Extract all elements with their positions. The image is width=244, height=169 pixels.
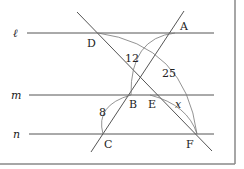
measure-df: 25 bbox=[162, 67, 176, 80]
label-line-l: ℓ bbox=[13, 27, 18, 40]
label-point-e: E bbox=[148, 98, 156, 111]
label-line-n: n bbox=[13, 128, 20, 141]
measure-ab: 12 bbox=[125, 52, 139, 65]
label-point-f: F bbox=[186, 138, 194, 151]
label-line-m: m bbox=[11, 89, 21, 102]
measure-ef: x bbox=[175, 98, 182, 111]
parallel-lines-diagram: ℓ m n A D B E C F 12 25 8 x bbox=[0, 0, 244, 169]
label-point-c: C bbox=[104, 138, 112, 151]
label-point-a: A bbox=[179, 20, 189, 33]
label-point-b: B bbox=[129, 98, 137, 111]
transversal-abc bbox=[91, 11, 184, 152]
measure-bc: 8 bbox=[99, 106, 106, 119]
label-point-d: D bbox=[87, 37, 96, 50]
